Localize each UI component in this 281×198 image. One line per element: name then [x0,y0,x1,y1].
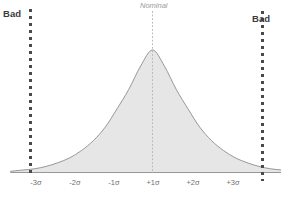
axis-tick-label: +2σ [186,178,199,187]
bad-label-right: Bad [252,13,270,24]
upper-limit-dotted-line [261,11,264,181]
process-capability-chart: Bad Bad Nominal -3σ-2σ-1σ+1σ+2σ+3σ [0,0,281,198]
axis-tick-label: +1σ [146,178,159,187]
normal-distribution-curve [0,0,281,198]
axis-tick-label: -1σ [108,178,119,187]
distribution-area-path [11,50,281,173]
bad-label-left: Bad [3,8,21,19]
axis-tick-label: -3σ [30,178,41,187]
nominal-dotted-line [152,11,153,173]
axis-tick-label: +3σ [226,178,239,187]
lower-limit-dotted-line [29,9,32,176]
axis-tick-label: -2σ [69,178,80,187]
nominal-label: Nominal [140,1,168,10]
